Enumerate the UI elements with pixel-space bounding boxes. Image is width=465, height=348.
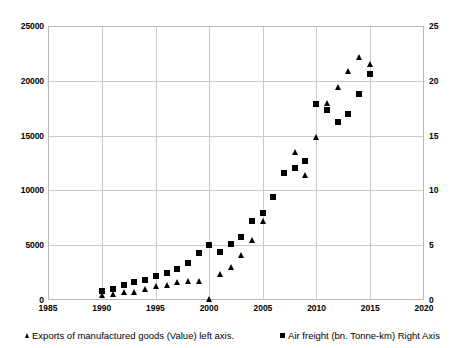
x-axis-tick-1995: 1995 xyxy=(135,304,175,313)
data-point-square-2011 xyxy=(324,107,330,113)
data-point-triangle-1996 xyxy=(164,282,170,288)
triangle-marker-icon xyxy=(25,333,29,338)
legend-item-exports: Exports of manufactured goods (Value) le… xyxy=(25,330,234,341)
data-point-triangle-1998 xyxy=(185,278,191,284)
data-point-triangle-2011 xyxy=(324,100,330,106)
x-axis-tick-2015: 2015 xyxy=(350,304,390,313)
gridline-horizontal xyxy=(49,190,423,191)
chart-legend: Exports of manufactured goods (Value) le… xyxy=(0,326,465,344)
data-point-square-2001 xyxy=(217,249,223,255)
data-point-square-2003 xyxy=(238,234,244,240)
data-point-triangle-2014 xyxy=(356,54,362,60)
legend-item-air-freight: Air freight (bn. Tonne-km) Right Axis xyxy=(280,330,440,341)
data-point-triangle-2010 xyxy=(313,134,319,140)
data-point-square-2008 xyxy=(292,165,298,171)
y-axis-left-tick-5000: 5000 xyxy=(25,241,44,250)
data-point-square-2014 xyxy=(356,91,362,97)
gridline-horizontal xyxy=(49,136,423,137)
y-axis-left-tick-15000: 15000 xyxy=(21,132,44,141)
y-axis-left-tick-10000: 10000 xyxy=(21,186,44,195)
data-point-square-1998 xyxy=(185,260,191,266)
data-point-triangle-2015 xyxy=(367,61,373,67)
gridline-horizontal xyxy=(49,81,423,82)
data-point-square-2005 xyxy=(260,210,266,216)
gridline-vertical xyxy=(209,27,210,299)
data-point-triangle-2001 xyxy=(217,271,223,277)
data-point-square-1997 xyxy=(174,266,180,272)
y-axis-right-tick-25: 25 xyxy=(429,22,438,31)
x-axis-tick-1990: 1990 xyxy=(82,304,122,313)
data-point-triangle-1994 xyxy=(142,286,148,292)
data-point-triangle-1993 xyxy=(131,289,137,295)
data-point-triangle-2009 xyxy=(302,172,308,178)
gridline-vertical xyxy=(102,27,103,299)
y-axis-left-tick-25000: 25000 xyxy=(21,22,44,31)
data-point-triangle-1995 xyxy=(153,283,159,289)
data-point-square-2006 xyxy=(270,194,276,200)
gridline-vertical xyxy=(316,27,317,299)
data-point-triangle-1999 xyxy=(196,278,202,284)
x-axis-tick-2010: 2010 xyxy=(297,304,337,313)
data-point-square-2004 xyxy=(249,218,255,224)
square-marker-icon xyxy=(280,333,285,338)
y-axis-right-tick-5: 5 xyxy=(429,241,434,250)
gridline-vertical xyxy=(370,27,371,299)
gridline-horizontal xyxy=(49,245,423,246)
y-axis-left-tick-20000: 20000 xyxy=(21,77,44,86)
data-point-square-2015 xyxy=(367,71,373,77)
data-point-square-1999 xyxy=(196,250,202,256)
data-point-triangle-2012 xyxy=(335,84,341,90)
data-point-square-1990 xyxy=(99,288,105,294)
data-point-square-2012 xyxy=(335,119,341,125)
data-point-square-2013 xyxy=(345,111,351,117)
data-point-square-2000 xyxy=(206,242,212,248)
data-point-triangle-2008 xyxy=(292,149,298,155)
y-axis-right-tick-20: 20 xyxy=(429,77,438,86)
data-point-triangle-2005 xyxy=(260,218,266,224)
gridline-vertical xyxy=(156,27,157,299)
x-axis-tick-1985: 1985 xyxy=(28,304,68,313)
data-point-square-1992 xyxy=(121,282,127,288)
data-point-square-1995 xyxy=(153,273,159,279)
data-point-triangle-2004 xyxy=(249,237,255,243)
y-axis-right-tick-15: 15 xyxy=(429,132,438,141)
data-point-triangle-2000 xyxy=(206,296,212,302)
data-point-square-1993 xyxy=(131,279,137,285)
data-point-square-1996 xyxy=(164,270,170,276)
data-point-triangle-2003 xyxy=(238,252,244,258)
x-axis-tick-2000: 2000 xyxy=(189,304,229,313)
x-axis-tick-2005: 2005 xyxy=(243,304,283,313)
x-axis-tick-2020: 2020 xyxy=(404,304,444,313)
data-point-square-2010 xyxy=(313,101,319,107)
data-point-square-1991 xyxy=(110,286,116,292)
data-point-square-1994 xyxy=(142,277,148,283)
data-point-triangle-2013 xyxy=(345,68,351,74)
legend-item-label: Air freight (bn. Tonne-km) Right Axis xyxy=(288,330,440,341)
data-point-square-2002 xyxy=(228,241,234,247)
gridline-vertical xyxy=(263,27,264,299)
data-point-triangle-1992 xyxy=(121,289,127,295)
legend-item-label: Exports of manufactured goods (Value) le… xyxy=(32,330,234,341)
chart-container: 25000 20000 15000 10000 5000 0 25 20 15 … xyxy=(0,0,465,348)
plot-area xyxy=(48,26,424,300)
data-point-square-2007 xyxy=(281,170,287,176)
data-point-triangle-2002 xyxy=(228,264,234,270)
y-axis-right-tick-10: 10 xyxy=(429,186,438,195)
data-point-triangle-1997 xyxy=(174,279,180,285)
data-point-square-2009 xyxy=(302,158,308,164)
